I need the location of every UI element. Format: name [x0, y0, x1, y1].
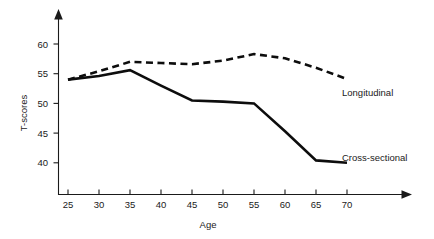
- series-label-longitudinal: Longitudinal: [342, 87, 393, 98]
- x-tick-labels: 25 30 35 40 45 50 55 60 65 70: [63, 199, 353, 210]
- line-chart: 60 55 50 45 40 25 30 35 40 45 50: [0, 0, 434, 239]
- x-tick-label-60: 60: [280, 199, 291, 210]
- x-tick-label-35: 35: [125, 199, 136, 210]
- chart-container: 60 55 50 45 40 25 30 35 40 45 50: [0, 0, 434, 239]
- x-tick-label-70: 70: [342, 199, 353, 210]
- x-tick-label-45: 45: [187, 199, 198, 210]
- x-axis-arrow-icon: [402, 190, 413, 199]
- series-line-cross-sectional: [68, 70, 347, 163]
- x-tick-label-30: 30: [94, 199, 105, 210]
- x-tick-label-55: 55: [249, 199, 260, 210]
- x-tick-label-50: 50: [218, 199, 229, 210]
- series-label-cross-sectional: Cross-sectional: [342, 152, 407, 163]
- x-tick-label-40: 40: [156, 199, 167, 210]
- y-tick-label-50: 50: [37, 98, 48, 109]
- y-axis-arrow-icon: [54, 9, 63, 20]
- x-tick-label-65: 65: [311, 199, 322, 210]
- y-tick-labels: 60 55 50 45 40: [37, 39, 48, 169]
- y-tick-label-45: 45: [37, 128, 48, 139]
- x-tick-label-25: 25: [63, 199, 74, 210]
- x-axis-title: Age: [200, 219, 217, 230]
- x-axis: [59, 190, 413, 199]
- series-line-longitudinal: [68, 54, 347, 80]
- y-tick-label-55: 55: [37, 68, 48, 79]
- y-tick-marks: [54, 44, 59, 163]
- y-axis-title: T-scores: [18, 95, 29, 132]
- y-tick-label-60: 60: [37, 39, 48, 50]
- x-tick-marks: [68, 190, 347, 195]
- y-tick-label-40: 40: [37, 157, 48, 168]
- y-axis: [54, 9, 63, 195]
